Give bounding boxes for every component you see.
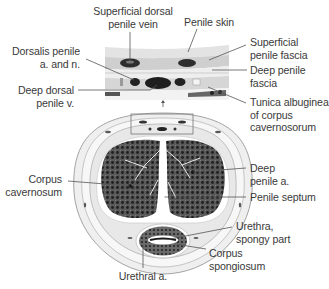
label-corpus-spongiosum: Corpus spongiosum: [209, 247, 265, 272]
corpus-cavernosum-left: [101, 140, 160, 218]
label-deep-penile-fascia: Deep penile fascia: [250, 64, 305, 89]
corpus-cavernosum-right: [166, 140, 225, 218]
label-penile-skin: Penile skin: [184, 16, 234, 29]
label-deep-dorsal-vein: Deep dorsal penile v.: [4, 84, 74, 109]
label-penile-septum: Penile septum: [250, 191, 316, 204]
label-urethral-artery: Urethral a.: [103, 270, 183, 283]
label-superficial-dorsal-vein: Superficial dorsal penile vein: [88, 5, 178, 30]
dorsal-inset: [105, 40, 229, 100]
label-tunica-albuginea: Tunica albuginea of corpus cavernosorum: [250, 96, 329, 134]
label-superficial-penile-fascia: Superficial penile fascia: [250, 36, 308, 61]
label-deep-penile-artery: Deep penile a.: [250, 162, 289, 187]
label-urethra-spongy-part: Urethra, spongy part: [236, 220, 290, 245]
deep-dorsal-vein: [145, 77, 171, 89]
label-corpus-cavernosum: Corpus cavernosum: [2, 173, 62, 198]
label-dorsalis-penile: Dorsalis penile a. and n.: [4, 45, 80, 70]
